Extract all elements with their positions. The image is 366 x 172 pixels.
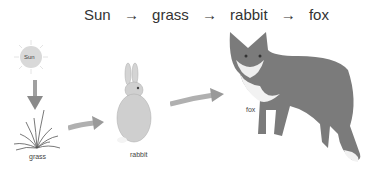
arrow-down-icon bbox=[27, 80, 43, 110]
fox-illustration bbox=[226, 30, 366, 170]
chain-item-grass: grass bbox=[152, 6, 189, 23]
chain-item-fox: fox bbox=[309, 6, 329, 23]
rabbit-label: rabbit bbox=[130, 151, 148, 158]
arrow-icon: → bbox=[124, 6, 139, 23]
arrow-right-icon bbox=[170, 86, 224, 108]
rabbit-illustration bbox=[114, 62, 160, 146]
arrow-right-icon bbox=[68, 114, 104, 134]
arrow-icon: → bbox=[202, 6, 217, 23]
sun-label: Sun bbox=[24, 54, 35, 60]
grass-icon bbox=[12, 108, 62, 152]
chain-item-sun: Sun bbox=[84, 6, 111, 23]
food-chain-sequence: Sun → grass → rabbit → fox bbox=[84, 6, 329, 23]
arrow-icon: → bbox=[281, 6, 296, 23]
chain-item-rabbit: rabbit bbox=[230, 6, 268, 23]
grass-label: grass bbox=[29, 153, 46, 160]
fox-label: fox bbox=[246, 106, 255, 113]
